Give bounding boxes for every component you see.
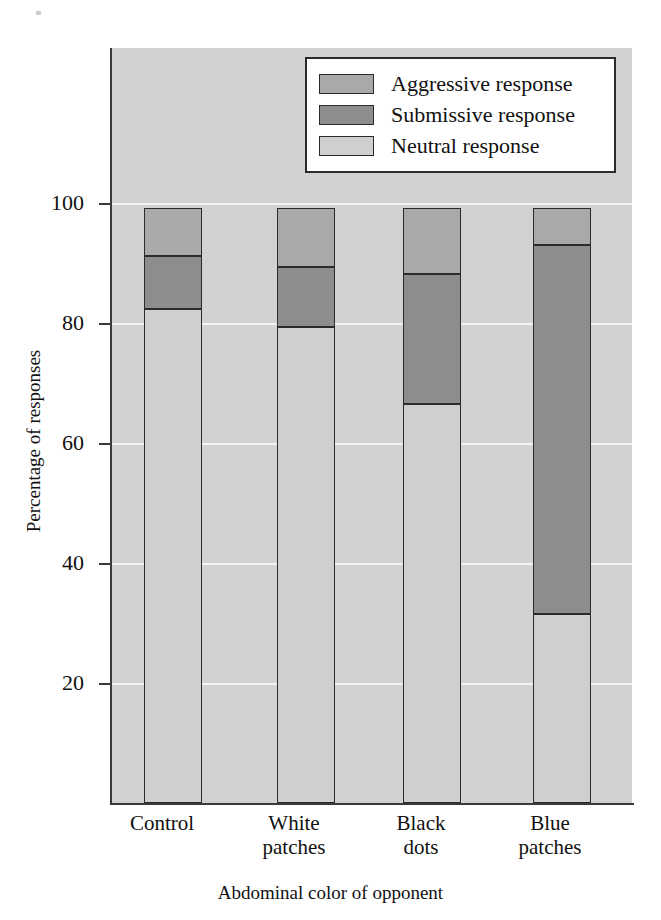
segment-blue-patches-submissive[interactable]	[533, 245, 591, 614]
x-tick-label-black-dots-line1: Black	[363, 812, 479, 836]
x-tick-label-blue-patches: Blue patches	[492, 812, 608, 859]
legend-label-submissive: Submissive response	[391, 102, 575, 128]
x-axis-line	[110, 803, 634, 805]
segment-blue-patches-neutral[interactable]	[533, 614, 591, 803]
segment-white-patches-neutral[interactable]	[277, 327, 335, 803]
bar-control[interactable]	[144, 48, 202, 803]
x-axis-title: Abdominal color of opponent	[0, 882, 661, 904]
legend-swatch-aggressive-icon	[319, 74, 374, 94]
x-tick-label-control: Control	[104, 812, 220, 836]
legend-swatch-neutral-icon	[319, 136, 374, 156]
plot-area: Aggressive response Submissive response …	[112, 48, 632, 803]
y-tick-mark-40	[99, 563, 111, 565]
stacked-bar-chart-figure: Aggressive response Submissive response …	[0, 0, 661, 920]
x-tick-label-blue-patches-line1: Blue	[492, 812, 608, 836]
x-tick-label-black-dots: Black dots	[363, 812, 479, 859]
y-tick-mark-100	[99, 203, 111, 205]
legend-item-submissive[interactable]: Submissive response	[319, 99, 602, 130]
legend-item-aggressive[interactable]: Aggressive response	[319, 68, 602, 99]
segment-black-dots-neutral[interactable]	[403, 404, 461, 803]
legend: Aggressive response Submissive response …	[305, 57, 616, 173]
y-tick-mark-20	[99, 683, 111, 685]
legend-label-neutral: Neutral response	[391, 133, 539, 159]
segment-control-neutral[interactable]	[144, 309, 202, 803]
scan-speck-artifact	[36, 11, 41, 15]
y-tick-mark-60	[99, 443, 111, 445]
x-tick-label-white-patches-line2: patches	[236, 836, 352, 860]
segment-white-patches-submissive[interactable]	[277, 267, 335, 327]
segment-control-aggressive[interactable]	[144, 208, 202, 256]
segment-black-dots-submissive[interactable]	[403, 274, 461, 404]
x-tick-label-blue-patches-line2: patches	[492, 836, 608, 860]
y-tick-label-20: 20	[32, 672, 84, 694]
legend-item-neutral[interactable]: Neutral response	[319, 130, 602, 161]
y-tick-mark-80	[99, 323, 111, 325]
y-axis-title: Percentage of responses	[23, 311, 45, 571]
x-tick-label-black-dots-line2: dots	[363, 836, 479, 860]
y-tick-label-100: 100	[32, 192, 84, 214]
segment-control-submissive[interactable]	[144, 256, 202, 309]
y-axis-line	[110, 48, 112, 805]
segment-white-patches-aggressive[interactable]	[277, 208, 335, 267]
x-tick-label-control-line1: Control	[104, 812, 220, 836]
x-tick-label-white-patches-line1: White	[236, 812, 352, 836]
legend-swatch-submissive-icon	[319, 105, 374, 125]
legend-label-aggressive: Aggressive response	[391, 71, 572, 97]
segment-blue-patches-aggressive[interactable]	[533, 208, 591, 245]
x-tick-label-white-patches: White patches	[236, 812, 352, 859]
segment-black-dots-aggressive[interactable]	[403, 208, 461, 274]
